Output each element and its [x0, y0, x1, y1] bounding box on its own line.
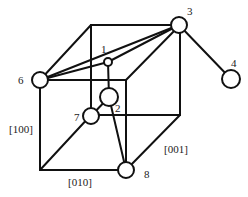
atom-8: [118, 162, 134, 178]
bond-line: [108, 25, 179, 62]
cube-edge: [40, 25, 91, 80]
atom-1: [104, 58, 112, 66]
bond-line: [179, 25, 231, 79]
atom-label-2: 2: [115, 102, 121, 114]
axis-label: [100]: [9, 123, 33, 135]
bond-line: [40, 62, 108, 80]
axis-label: [001]: [164, 143, 188, 155]
atom-3: [171, 17, 187, 33]
axis-label: [010]: [68, 176, 92, 188]
atom-label-3: 3: [187, 5, 193, 17]
bond-line: [40, 25, 179, 80]
atom-label-6: 6: [18, 74, 24, 86]
crystal-structure-diagram: 1234678[100][010][001]: [0, 0, 248, 197]
atom-7: [83, 108, 99, 124]
atom-6: [32, 72, 48, 88]
atom-bonds: [40, 25, 231, 170]
atom-label-7: 7: [74, 111, 80, 123]
atom-label-1: 1: [101, 43, 107, 55]
atom-label-4: 4: [231, 57, 237, 69]
cube-edge: [40, 115, 91, 170]
atom-label-8: 8: [144, 168, 150, 180]
atom-4: [222, 70, 240, 88]
cube-edge: [126, 25, 180, 80]
